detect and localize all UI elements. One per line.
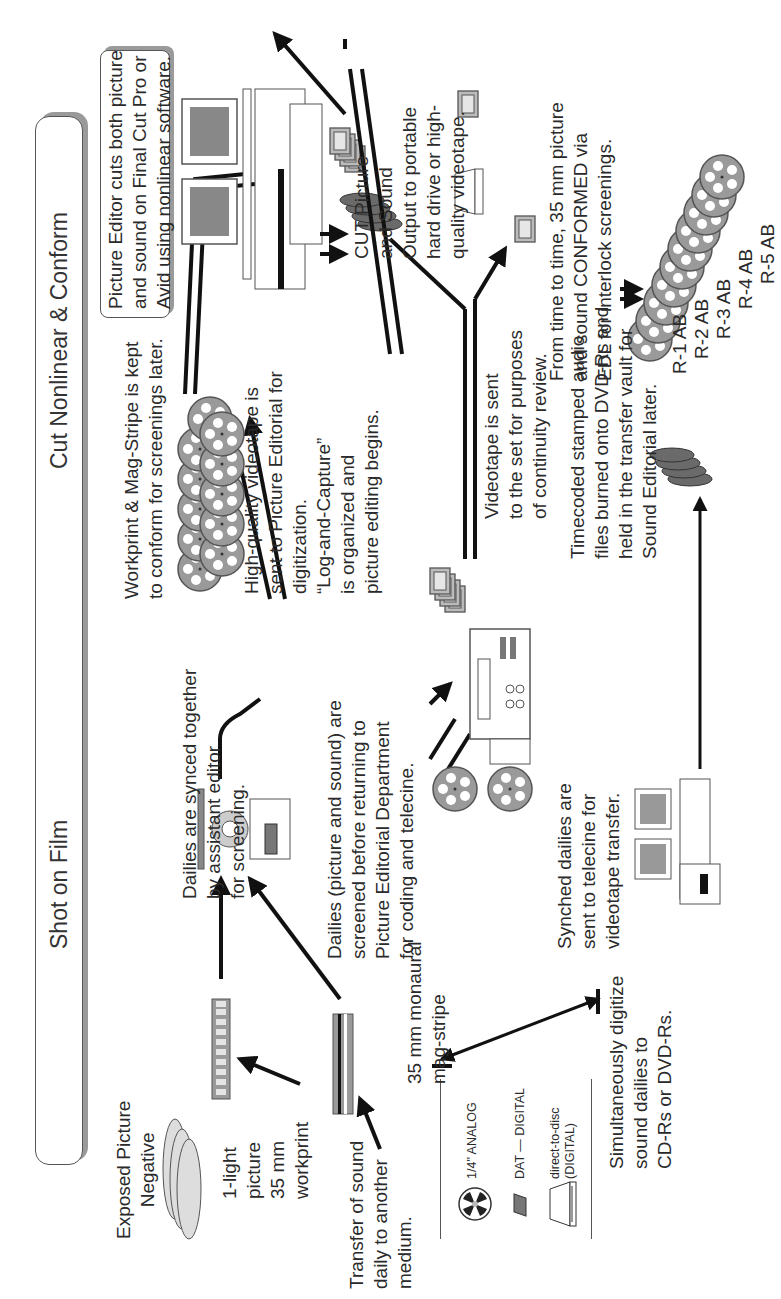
magstripe-film-icon: [333, 1014, 353, 1114]
reel-label-r2: R-2 AB: [690, 299, 714, 359]
label-digitize: Simultaneously digitize sound dailies to…: [605, 976, 677, 1169]
legend-label-dat: DAT — DIGITAL: [513, 1088, 528, 1179]
reel-label-r1: R-1 AB: [668, 314, 692, 374]
legend-label-analog: 1/4" ANALOG: [465, 1102, 480, 1179]
label-exposed-negative: Exposed Picture Negative: [112, 1101, 160, 1239]
label-screened: Dailies (picture and sound) are screened…: [323, 700, 419, 959]
reel-label-r3: R-3 AB: [712, 279, 736, 339]
arrow-negative-to-workprint: [240, 1059, 300, 1084]
label-picture-editor: Picture Editor cuts both picture and sou…: [104, 50, 176, 309]
negative-stack-icon: [163, 1119, 201, 1239]
reel-label-r5: R-5 AB: [756, 224, 780, 284]
videotape-stack-icon: [430, 568, 465, 612]
telecine-machine-icon: [433, 629, 532, 811]
label-videotape-set: Videotape is sent to the set for purpose…: [480, 330, 552, 519]
section-title-cut-nonlinear: Cut Nonlinear & Conform: [46, 212, 73, 469]
label-sound-transfer: Transfer of sound daily to another mediu…: [345, 1141, 417, 1289]
label-magstripe: 35 mm monaural mag-stripe: [403, 941, 451, 1084]
label-hq-videotape: High-quality videotape is sent to Pictur…: [240, 371, 384, 594]
label-workprint-kept: Workprint & Mag-Stripe is kept to confor…: [120, 338, 168, 599]
label-synced: Dailies are synced together by assistant…: [178, 669, 250, 899]
section-title-shot-on-film: Shot on Film: [46, 820, 73, 949]
legend-label-direct-disc: direct-to-disc (DIGITAL): [548, 1107, 578, 1179]
digitize-workstation-icon: [635, 779, 720, 904]
continuity-videotape-icon: [515, 216, 535, 242]
label-cut-output: CUT Picture and Sound Output to portable…: [350, 105, 470, 259]
reel-label-r4: R-4 AB: [734, 249, 758, 309]
workprint-reels-cluster-icon: [178, 397, 244, 591]
workprint-film-icon: [212, 999, 230, 1099]
label-telecine: Synched dailies are sent to telecine for…: [553, 783, 625, 949]
label-conformed: From time to time, 35 mm picture and sou…: [545, 102, 617, 381]
diagram-canvas: Shot on Film Cut Nonlinear & Conform Exp…: [0, 0, 781, 1299]
label-workprint: 1-light picture 35 mm workprint: [218, 1122, 314, 1199]
